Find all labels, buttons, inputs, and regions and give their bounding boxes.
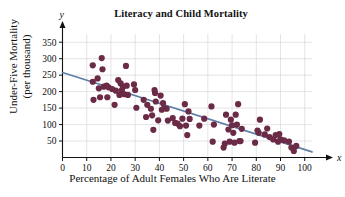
data-point	[111, 102, 117, 108]
data-point	[104, 94, 110, 100]
data-point	[99, 66, 105, 72]
x-tick-label: 30	[130, 163, 140, 173]
x-tick-label: 40	[155, 163, 165, 173]
data-point	[208, 103, 214, 109]
y-tick-label: 50	[47, 136, 57, 146]
data-point	[150, 127, 156, 133]
data-point	[123, 63, 129, 69]
data-point	[211, 121, 217, 127]
data-point	[256, 130, 262, 136]
data-point	[235, 101, 241, 107]
data-point	[233, 112, 239, 118]
data-point	[90, 62, 96, 68]
data-point	[153, 98, 159, 104]
data-point	[187, 116, 193, 122]
data-point	[286, 139, 292, 145]
data-point	[237, 138, 243, 144]
data-point	[264, 125, 270, 131]
x-tick-label: 70	[227, 163, 237, 173]
data-point	[97, 94, 103, 100]
x-tick-label: 100	[298, 163, 313, 173]
data-point	[141, 97, 147, 103]
y-tick-label: 100	[42, 120, 57, 130]
data-point	[164, 106, 170, 112]
x-tick-label: 90	[276, 163, 286, 173]
y-variable-symbol: y	[59, 9, 65, 20]
x-tick-label: 60	[203, 163, 213, 173]
y-tick-label: 150	[42, 103, 57, 113]
data-point	[276, 131, 282, 137]
data-point	[239, 126, 245, 132]
data-point	[185, 108, 191, 114]
data-point	[228, 117, 234, 123]
data-point	[177, 123, 183, 129]
data-point	[133, 105, 139, 111]
x-tick-label: 80	[252, 163, 262, 173]
y-tick-label: 350	[42, 38, 57, 48]
x-tick-label: 0	[60, 163, 65, 173]
x-variable-symbol: x	[336, 152, 342, 163]
data-point	[152, 90, 158, 96]
y-axis-ticks: 50100150200250300350	[42, 38, 62, 147]
data-point	[183, 122, 189, 128]
data-point	[252, 140, 258, 146]
x-tick-label: 20	[106, 163, 116, 173]
data-points	[90, 55, 300, 154]
data-point	[132, 87, 138, 93]
chart-figure: Literacy and Child Mortality Under-Five …	[0, 0, 345, 197]
y-tick-label: 200	[42, 87, 57, 97]
data-point	[158, 92, 164, 98]
data-point	[196, 122, 202, 128]
data-point	[99, 55, 105, 61]
data-point	[90, 97, 96, 103]
data-point	[234, 121, 240, 127]
data-point	[184, 132, 190, 138]
data-point	[201, 116, 207, 122]
x-tick-label: 50	[179, 163, 189, 173]
y-tick-label: 250	[42, 70, 57, 80]
data-point	[143, 114, 149, 120]
data-point	[223, 112, 229, 118]
data-point	[149, 112, 155, 118]
x-axis-ticks: 0102030405060708090100	[60, 158, 312, 174]
data-point	[155, 117, 161, 123]
data-point	[179, 116, 185, 122]
data-point	[182, 101, 188, 107]
data-point	[148, 106, 154, 112]
data-point	[230, 130, 236, 136]
data-point	[257, 117, 263, 123]
data-point	[124, 83, 130, 89]
scatter-plot: 50100150200250300350 0102030405060708090…	[0, 0, 345, 197]
y-tick-label: 300	[42, 54, 57, 64]
x-tick-label: 10	[82, 163, 92, 173]
data-point	[95, 75, 101, 81]
data-point	[131, 81, 137, 87]
data-point	[125, 92, 131, 98]
data-point	[293, 143, 299, 149]
data-point	[210, 139, 216, 145]
